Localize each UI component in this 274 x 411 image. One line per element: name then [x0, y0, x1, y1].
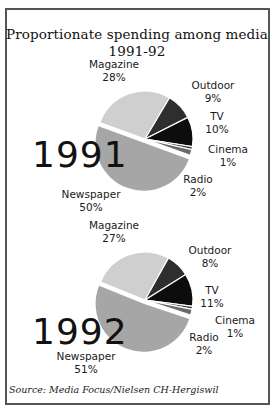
label-pct: 11%	[197, 297, 227, 310]
label-1991-radio: Radio 2%	[176, 173, 220, 198]
label-1992-magazine: Magazine 27%	[84, 219, 144, 244]
label-name: TV	[197, 284, 227, 297]
label-name: Magazine	[84, 58, 144, 71]
label-pct: 27%	[84, 232, 144, 245]
label-1992-tv: TV 11%	[197, 284, 227, 309]
label-1992-radio: Radio 2%	[182, 331, 226, 356]
label-1991-outdoor: Outdoor 9%	[183, 79, 243, 104]
label-1991-cinema: Cinema 1%	[200, 143, 256, 168]
label-pct: 1%	[200, 156, 256, 169]
label-1992-outdoor: Outdoor 8%	[180, 244, 240, 269]
label-1991-newspaper: Newspaper 50%	[56, 188, 126, 213]
label-name: Radio	[176, 173, 220, 186]
label-1991-tv: TV 10%	[197, 110, 237, 135]
label-name: Newspaper	[56, 188, 126, 201]
label-name: Cinema	[200, 143, 256, 156]
label-name: Outdoor	[180, 244, 240, 257]
label-pct: 50%	[56, 201, 126, 214]
label-pct: 28%	[84, 71, 144, 84]
label-1992-newspaper: Newspaper 51%	[50, 350, 122, 375]
label-name: TV	[197, 110, 237, 123]
label-name: Cinema	[207, 314, 263, 327]
source-note: Source: Media Focus/Nielsen CH-Hergiswil	[9, 384, 219, 395]
label-pct: 51%	[50, 363, 122, 376]
label-1991-magazine: Magazine 28%	[84, 58, 144, 83]
label-pct: 2%	[176, 186, 220, 199]
label-pct: 10%	[197, 123, 237, 136]
label-name: Outdoor	[183, 79, 243, 92]
year-label-1992: 1992	[32, 314, 128, 350]
label-pct: 2%	[182, 344, 226, 357]
label-name: Radio	[182, 331, 226, 344]
year-label-1991: 1991	[32, 137, 128, 173]
label-name: Magazine	[84, 219, 144, 232]
label-pct: 9%	[183, 92, 243, 105]
label-pct: 8%	[180, 257, 240, 270]
